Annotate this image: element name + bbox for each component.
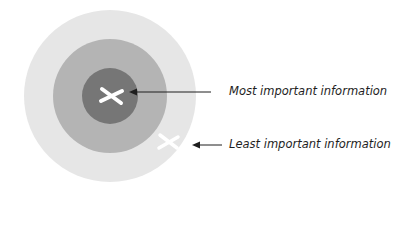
least-important-arrow — [192, 142, 222, 149]
most-important-label: Most important information — [229, 84, 387, 98]
least-important-label: Least important information — [229, 137, 391, 151]
